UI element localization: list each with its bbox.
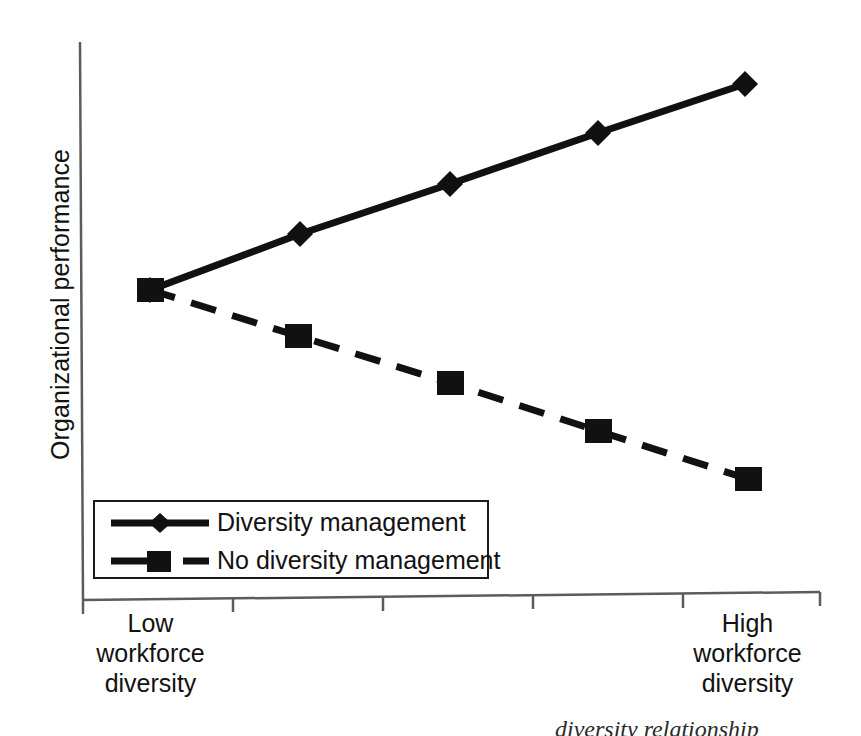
y-axis xyxy=(80,42,83,600)
legend-entry-no-diversity-management: No diversity management xyxy=(95,541,487,580)
legend-swatch-square-marker xyxy=(109,548,211,574)
chart-figure: Organizational performance Low workforce… xyxy=(0,0,861,736)
legend-entry-diversity-management: Diversity management xyxy=(95,503,487,542)
bottom-caption-fragment: diversity relationship xyxy=(555,716,861,736)
x-axis-label-low: Low workforce diversity xyxy=(63,608,238,698)
series-markers-no-diversity-management xyxy=(137,278,762,491)
legend-label-no-diversity-management: No diversity management xyxy=(217,546,500,575)
series-markers-diversity-management xyxy=(137,71,758,303)
chart-legend: Diversity management No diversity manage… xyxy=(93,500,489,579)
legend-swatch-diamond-marker xyxy=(109,510,211,536)
legend-label-diversity-management: Diversity management xyxy=(217,508,466,537)
x-axis xyxy=(83,592,820,600)
x-axis-label-high: High workforce diversity xyxy=(660,608,835,698)
y-axis-title: Organizational performance xyxy=(46,95,75,515)
